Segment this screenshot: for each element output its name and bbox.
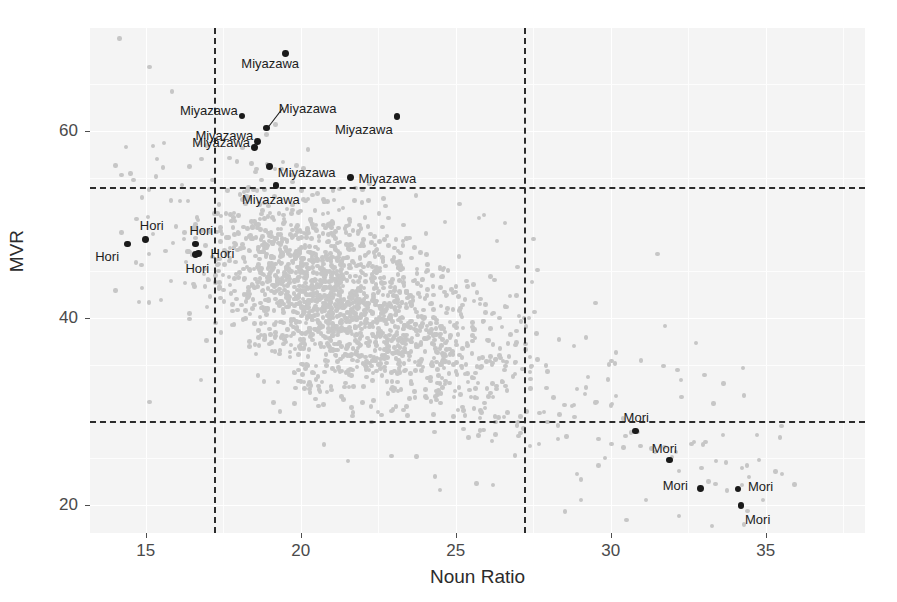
data-point-background [155, 157, 159, 161]
data-point-background [434, 326, 439, 331]
data-point-background [253, 277, 258, 282]
data-point-background [306, 231, 311, 236]
data-point-background [345, 278, 350, 283]
data-point-background [261, 249, 266, 254]
data-point-background [461, 427, 466, 432]
point-label: Mori [745, 513, 770, 526]
data-point-background [377, 239, 382, 244]
data-point-background [208, 294, 213, 299]
data-point-background [373, 254, 378, 259]
data-point-background [293, 256, 298, 261]
data-point-highlighted [124, 241, 131, 248]
data-point-background [247, 267, 252, 272]
data-point-background [398, 268, 402, 272]
data-point-background [375, 247, 379, 251]
data-point-background [385, 234, 390, 239]
data-point-background [134, 217, 138, 221]
data-point-background [263, 321, 268, 326]
data-point-background [444, 311, 449, 316]
data-point-background [414, 329, 418, 333]
data-point-background [199, 378, 203, 382]
data-point-background [405, 413, 410, 418]
data-point-background [313, 304, 318, 309]
data-point-background [276, 269, 281, 274]
data-point-background [134, 260, 138, 264]
data-point-background [465, 371, 470, 376]
data-point-background [273, 122, 278, 127]
data-point-background [451, 307, 456, 312]
data-point-background [379, 413, 384, 418]
data-point-background [241, 317, 246, 322]
data-point-background [454, 284, 459, 289]
data-point-background [575, 387, 579, 391]
data-point-background [412, 389, 416, 393]
data-point-background [295, 229, 300, 234]
data-point-background [370, 378, 375, 383]
data-point-background [348, 266, 353, 271]
data-point-background [363, 215, 368, 220]
data-point-background [235, 308, 240, 313]
data-point-background [324, 352, 329, 357]
data-point-background [187, 311, 192, 316]
data-point-background [290, 235, 295, 240]
data-point-background [444, 347, 449, 352]
data-point-background [423, 349, 428, 354]
data-point-background [254, 235, 259, 240]
data-point-background [203, 284, 208, 289]
data-point-background [364, 365, 369, 370]
data-point-background [606, 377, 610, 381]
point-label: Miyazawa [335, 123, 393, 136]
data-point-background [470, 325, 474, 329]
data-point-background [583, 392, 587, 396]
data-point-background [271, 241, 275, 245]
data-point-background [414, 454, 418, 458]
data-point-background [419, 284, 424, 289]
data-point-background [339, 289, 344, 294]
data-point-background [316, 384, 321, 389]
data-point-background [413, 368, 418, 373]
data-point-background [434, 360, 439, 365]
data-point-background [221, 288, 225, 292]
x-axis-tick-label: 30 [581, 541, 641, 561]
data-point-background [361, 265, 366, 270]
data-point-background [438, 285, 443, 290]
data-point-background [341, 206, 345, 210]
data-point-background [331, 270, 336, 275]
data-point-background [307, 266, 311, 270]
data-point-background [234, 297, 239, 302]
data-point-background [322, 345, 326, 349]
data-point-background [679, 395, 683, 399]
data-point-background [341, 354, 346, 359]
data-point-background [473, 371, 478, 376]
data-point-background [273, 236, 278, 241]
data-point-background [724, 460, 728, 464]
data-point-background [514, 293, 519, 298]
data-point-background [714, 459, 718, 463]
data-point-background [491, 342, 495, 346]
data-point-background [221, 273, 225, 277]
data-point-background [257, 257, 262, 262]
data-point-background [340, 306, 345, 311]
data-point-highlighted [192, 251, 199, 258]
data-point-background [572, 403, 576, 407]
data-point-background [424, 231, 429, 236]
data-point-background [272, 218, 276, 222]
data-point-background [282, 220, 287, 225]
x-axis-tick-label: 25 [426, 541, 486, 561]
data-point-background [382, 347, 387, 352]
data-point-background [392, 246, 397, 251]
data-point-background [222, 262, 227, 267]
data-point-background [358, 256, 363, 261]
x-axis-tick [301, 533, 302, 538]
data-point-background [780, 472, 784, 476]
data-point-background [147, 252, 151, 256]
data-point-background [124, 145, 128, 149]
y-axis-tick [85, 131, 90, 132]
x-axis-tick-label: 20 [271, 541, 331, 561]
data-point-background [271, 400, 276, 405]
data-point-background [456, 294, 461, 299]
data-point-background [297, 320, 302, 325]
data-point-background [298, 249, 302, 253]
data-point-background [535, 357, 539, 361]
data-point-background [258, 301, 263, 306]
